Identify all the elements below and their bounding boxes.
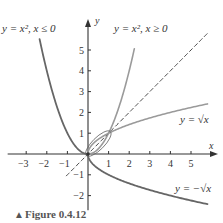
label-left-parabola: y = x², x ≤ 0 — [1, 22, 56, 34]
origin-point — [86, 152, 90, 156]
y-tick-label: 1 — [79, 128, 84, 139]
x-tick-label: −1 — [59, 158, 70, 169]
figure-caption: Figure 0.4.12 — [25, 208, 87, 220]
x-tick-label: 5 — [189, 158, 194, 169]
y-axis-arrow-icon — [85, 19, 91, 27]
y-tick-label: −2 — [73, 190, 84, 201]
y-axis-label: y — [94, 15, 100, 26]
y-tick-label: 4 — [79, 65, 84, 76]
y-tick-label: −1 — [73, 169, 84, 180]
label-right-parabola: y = x², x ≥ 0 — [113, 22, 168, 34]
x-tick-label: 2 — [127, 158, 132, 169]
x-tick-label: −2 — [38, 158, 49, 169]
x-tick-label: 3 — [147, 158, 152, 169]
x-axis-label: x — [208, 140, 214, 151]
x-tick-label: −3 — [18, 158, 29, 169]
y-tick-label: 5 — [79, 45, 84, 56]
label-sqrt: y = √x — [179, 113, 209, 125]
x-tick-label: 1 — [106, 158, 111, 169]
y-tick-label: 2 — [79, 107, 84, 118]
label-neg-sqrt: y = −√x — [174, 182, 211, 194]
y-tick-label: 3 — [79, 86, 84, 97]
curve-y-x — [88, 104, 207, 154]
x-tick-label: 4 — [168, 158, 173, 169]
x-axis-arrow-icon — [210, 151, 218, 157]
caption-marker: ▲ — [14, 209, 24, 220]
figure-plot: −3−2−112345−2−112345 y = x², x ≤ 0 y = x… — [0, 0, 223, 223]
